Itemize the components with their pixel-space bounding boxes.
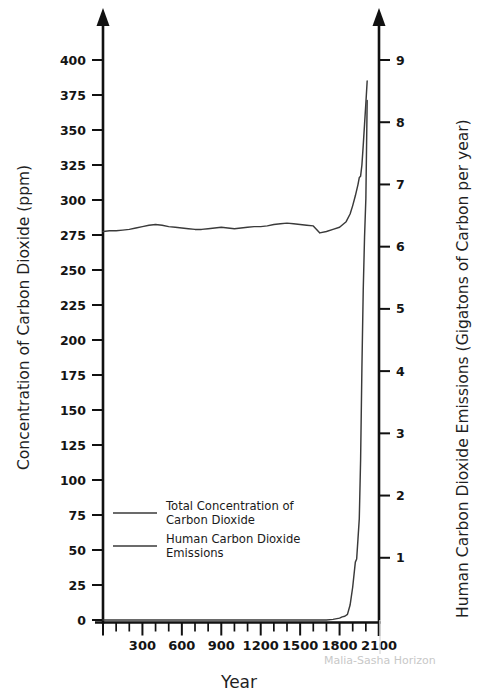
left-tick-label-200: 200 — [60, 333, 86, 348]
right-tick-label-1: 1 — [396, 550, 405, 565]
right-tick-label-6: 6 — [396, 239, 405, 254]
left-axis-arrowhead — [97, 8, 110, 26]
x-tick-label-1800: 1800 — [321, 638, 357, 653]
legend-label-human-emissions-line2: Emissions — [166, 546, 224, 560]
left-axis-ticks: 0255075100125150175200225250275300325350… — [60, 53, 103, 628]
left-tick-label-75: 75 — [69, 508, 86, 523]
right-axis-arrowhead — [373, 8, 386, 26]
left-tick-label-275: 275 — [60, 228, 86, 243]
left-tick-label-50: 50 — [69, 543, 87, 558]
left-tick-label-175: 175 — [60, 368, 86, 383]
right-tick-label-4: 4 — [396, 364, 405, 379]
right-tick-label-8: 8 — [396, 115, 405, 130]
x-tick-label-600: 600 — [168, 638, 195, 653]
left-tick-label-325: 325 — [60, 158, 86, 173]
left-tick-label-0: 0 — [77, 613, 86, 628]
x-tick-label-1200: 1200 — [243, 638, 279, 653]
left-tick-label-125: 125 — [60, 438, 86, 453]
right-axis-title: Human Carbon Dioxide Emissions (Gigatons… — [454, 119, 472, 618]
left-tick-label-250: 250 — [60, 263, 86, 278]
watermark-label: Malia-Sasha Horizon — [324, 654, 436, 667]
x-tick-label-2100: 2100 — [361, 638, 397, 653]
x-tick-label-1500: 1500 — [282, 638, 318, 653]
x-tick-label-300: 300 — [129, 638, 156, 653]
chart-legend: Total Concentration of Carbon Dioxide Hu… — [113, 499, 300, 560]
legend-label-human-emissions-line1: Human Carbon Dioxide — [166, 532, 300, 546]
chart-figure: 0255075100125150175200225250275300325350… — [0, 0, 479, 696]
series-line-total-concentration — [103, 81, 367, 233]
left-tick-label-400: 400 — [60, 53, 86, 68]
right-tick-label-5: 5 — [396, 301, 405, 316]
right-tick-label-7: 7 — [396, 177, 405, 192]
left-tick-label-300: 300 — [60, 193, 86, 208]
right-axis-ticks: 123456789 — [379, 53, 405, 566]
right-tick-label-2: 2 — [396, 488, 405, 503]
legend-item-total-concentration[interactable]: Total Concentration of Carbon Dioxide — [113, 499, 295, 527]
left-tick-label-25: 25 — [69, 578, 86, 593]
legend-item-human-emissions[interactable]: Human Carbon Dioxide Emissions — [113, 532, 300, 560]
legend-label-total-concentration-line1: Total Concentration of — [165, 499, 295, 513]
x-tick-label-900: 900 — [208, 638, 235, 653]
left-tick-label-100: 100 — [60, 473, 86, 488]
x-axis-ticks: 3006009001200150018002100 — [103, 623, 397, 653]
left-tick-label-375: 375 — [60, 88, 86, 103]
left-axis-title: Concentration of Carbon Dioxide (ppm) — [15, 165, 33, 470]
left-tick-label-225: 225 — [60, 298, 86, 313]
legend-label-total-concentration-line2: Carbon Dioxide — [166, 513, 255, 527]
right-tick-label-3: 3 — [396, 426, 405, 441]
x-axis-title: Year — [220, 672, 257, 692]
right-tick-label-9: 9 — [396, 53, 405, 68]
left-tick-label-350: 350 — [60, 123, 86, 138]
left-tick-label-150: 150 — [60, 403, 86, 418]
co2-emissions-dual-axis-chart: 0255075100125150175200225250275300325350… — [0, 0, 479, 696]
